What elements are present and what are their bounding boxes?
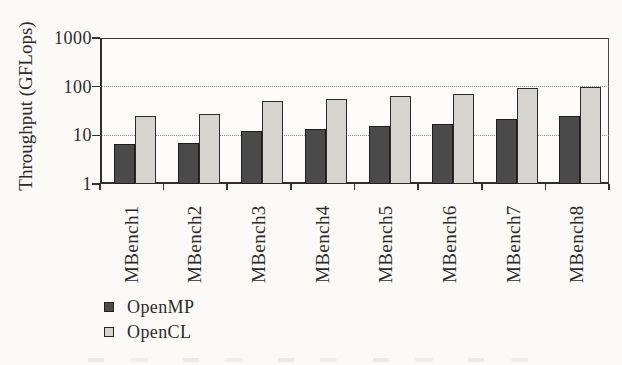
y-tick-mark-100	[92, 86, 100, 88]
x-category-label-mbench8: MBench8	[567, 187, 587, 283]
bar-opencl-mbench2	[199, 114, 220, 184]
y-tick-label-1: 1	[38, 174, 92, 194]
legend-swatch-opencl	[104, 327, 114, 337]
scanned-bar-chart-figure: Throughput (GFLops) 1101001000 MBench1MB…	[0, 0, 622, 365]
x-category-label-mbench5: MBench5	[376, 187, 396, 283]
legend-label-opencl: OpenCL	[127, 322, 191, 343]
cropped-caption-artifact	[88, 358, 528, 362]
bar-openmp-mbench2	[178, 143, 199, 184]
bar-opencl-mbench5	[390, 96, 411, 184]
x-tick-mark-0	[99, 184, 101, 190]
legend-item-openmp: OpenMP	[104, 297, 194, 317]
legend-swatch-openmp	[104, 302, 114, 312]
y-tick-mark-10	[92, 135, 100, 137]
bar-openmp-mbench4	[305, 129, 326, 184]
bar-opencl-mbench7	[517, 88, 538, 184]
bar-opencl-mbench4	[326, 99, 347, 184]
bar-opencl-mbench8	[580, 87, 601, 184]
bar-opencl-mbench3	[262, 101, 283, 184]
x-category-label-mbench3: MBench3	[249, 187, 269, 283]
bar-openmp-mbench8	[559, 116, 580, 184]
x-tick-mark-2	[226, 184, 228, 190]
bar-opencl-mbench6	[453, 94, 474, 184]
x-tick-mark-1	[163, 184, 165, 190]
y-tick-label-1000: 1000	[38, 28, 92, 48]
bar-opencl-mbench1	[135, 116, 156, 184]
legend-label-openmp: OpenMP	[127, 297, 194, 318]
x-tick-mark-5	[417, 184, 419, 190]
bar-openmp-mbench6	[432, 124, 453, 184]
x-category-label-mbench4: MBench4	[313, 187, 333, 283]
x-category-label-mbench2: MBench2	[185, 187, 205, 283]
legend-item-opencl: OpenCL	[104, 322, 194, 342]
x-tick-mark-6	[481, 184, 483, 190]
x-tick-mark-8	[608, 184, 610, 190]
legend: OpenMPOpenCL	[104, 297, 194, 347]
x-category-label-mbench1: MBench1	[122, 187, 142, 283]
x-category-label-mbench6: MBench6	[440, 187, 460, 283]
x-tick-mark-3	[290, 184, 292, 190]
y-axis-title: Throughput (GFLops)	[15, 11, 37, 201]
y-tick-mark-1000	[92, 37, 100, 39]
x-tick-mark-4	[354, 184, 356, 190]
x-category-label-mbench7: MBench7	[504, 187, 524, 283]
y-tick-label-100: 100	[38, 77, 92, 97]
bar-openmp-mbench3	[241, 131, 262, 184]
gridline-100	[100, 86, 609, 87]
bar-openmp-mbench5	[369, 126, 390, 184]
bar-openmp-mbench1	[114, 144, 135, 184]
y-tick-label-10: 10	[38, 125, 92, 145]
x-tick-mark-7	[545, 184, 547, 190]
bar-openmp-mbench7	[496, 119, 517, 184]
